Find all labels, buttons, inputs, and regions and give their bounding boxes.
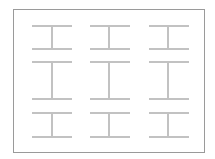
i-beam-shape (32, 113, 72, 137)
i-beam-shape (90, 62, 130, 99)
i-beam-shape (32, 26, 72, 49)
i-beam-shape (149, 62, 189, 99)
i-beam-shape (32, 62, 72, 99)
i-beam-shape (149, 113, 189, 137)
i-beam-grid-diagram (0, 0, 215, 159)
i-beam-shape (90, 26, 130, 49)
i-beam-shape (90, 113, 130, 137)
i-beam-shape (149, 26, 189, 49)
i-beam-group (32, 26, 189, 137)
